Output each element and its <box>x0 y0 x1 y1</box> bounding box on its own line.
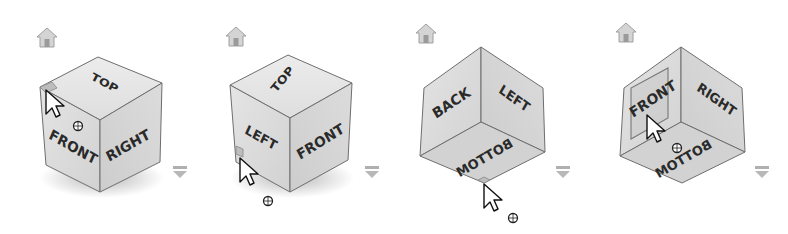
orbit-cursor-icon <box>673 144 682 153</box>
viewcube-panel-2[interactable]: TOP LEFT FRONT <box>226 27 379 206</box>
orbit-cursor-icon <box>509 214 518 223</box>
viewcube-panel-3[interactable]: BACK LEFT BOTTOM <box>416 24 570 223</box>
viewcube-panel-1[interactable]: TOP FRONT RIGHT <box>37 28 187 198</box>
chevron-down-icon[interactable] <box>556 166 570 178</box>
chevron-down-icon[interactable] <box>365 166 379 178</box>
viewcube-comparison: TOP FRONT RIGHT TOP LEFT FRONT BACK LEFT… <box>0 0 788 234</box>
orbit-cursor-icon <box>74 122 83 131</box>
home-icon[interactable] <box>416 24 436 43</box>
home-icon[interactable] <box>616 23 636 42</box>
orbit-cursor-icon <box>264 197 273 206</box>
home-icon[interactable] <box>37 28 57 47</box>
viewcube-panel-4[interactable]: FRONT RIGHT BOTTOM <box>616 23 769 183</box>
mouse-cursor-icon <box>484 184 502 211</box>
chevron-down-icon[interactable] <box>755 166 769 178</box>
home-icon[interactable] <box>226 27 246 46</box>
chevron-down-icon[interactable] <box>173 166 187 178</box>
